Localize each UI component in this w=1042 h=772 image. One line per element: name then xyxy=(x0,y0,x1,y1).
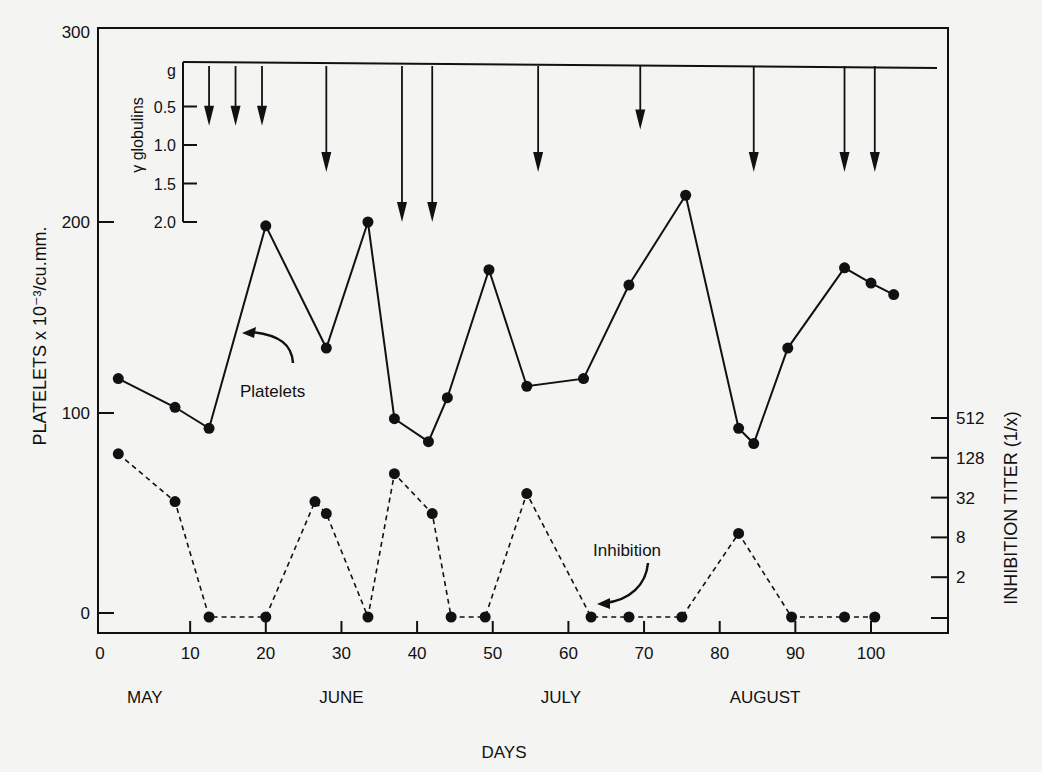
inhibition-point xyxy=(389,468,400,479)
month-label: MAY xyxy=(127,688,163,707)
inhibition-point xyxy=(676,612,687,623)
platelets-pointer-curve xyxy=(252,332,293,363)
arrow-down-icon xyxy=(257,106,267,126)
inhibition-point xyxy=(839,612,850,623)
inhibition-point xyxy=(733,528,744,539)
y2-tick-label: 32 xyxy=(956,489,975,508)
x-tick-label: 20 xyxy=(256,644,275,663)
inhibition-point xyxy=(170,496,181,507)
arrow-down-icon xyxy=(321,152,331,172)
x-tick-label: 80 xyxy=(710,644,729,663)
inhibition-line xyxy=(118,454,875,617)
inhibition-point xyxy=(427,508,438,519)
platelets-point xyxy=(733,423,744,434)
x-tick-label: 50 xyxy=(483,644,502,663)
inset-tick-label: 0.5 xyxy=(154,99,176,116)
y-tick-label: 0 xyxy=(81,604,90,623)
x-tick-label: 40 xyxy=(408,644,427,663)
y2-tick-label: 512 xyxy=(956,409,984,428)
platelets-point xyxy=(321,343,332,354)
y-tick-label: 300 xyxy=(62,23,90,42)
y2-tick-label: 2 xyxy=(956,568,965,587)
inhibition-point xyxy=(204,612,215,623)
x-tick-label: 30 xyxy=(332,644,351,663)
platelets-point xyxy=(748,438,759,449)
inhibition-point xyxy=(309,496,320,507)
platelets-point xyxy=(866,278,877,289)
inset-label: γ globulins xyxy=(129,97,146,173)
inhibition-point xyxy=(113,448,124,459)
platelets-point xyxy=(680,190,691,201)
platelets-point xyxy=(888,289,899,300)
y-tick-label: 200 xyxy=(62,213,90,232)
inhibition-point xyxy=(623,612,634,623)
y-tick-label: 100 xyxy=(62,404,90,423)
frame-border xyxy=(98,28,948,633)
x-axis-label: DAYS xyxy=(481,743,526,762)
platelets-point xyxy=(170,402,181,413)
platelets-point xyxy=(578,373,589,384)
plot-frame xyxy=(98,28,948,633)
arrow-down-icon xyxy=(231,106,241,126)
y-axis-label: PLATELETS x 10⁻³/cu.mm. xyxy=(30,226,50,445)
arrow-left-icon xyxy=(242,327,256,338)
inhibition-point xyxy=(260,612,271,623)
platelets-point xyxy=(260,220,271,231)
y2-tick-label: 128 xyxy=(956,449,984,468)
platelets-point xyxy=(442,392,453,403)
inhibition-point xyxy=(521,488,532,499)
x-tick-label: 100 xyxy=(857,644,885,663)
inhibition-point xyxy=(321,508,332,519)
x-tick-label: 0 xyxy=(95,644,104,663)
platelets-point xyxy=(483,264,494,275)
arrow-down-icon xyxy=(204,106,214,126)
platelets-point xyxy=(839,262,850,273)
x-tick-label: 60 xyxy=(559,644,578,663)
arrow-down-icon xyxy=(749,152,759,172)
inhibition-point xyxy=(362,612,373,623)
platelet-inhibition-chart: 0102030405060708090100MAYJUNEJULYAUGUST0… xyxy=(0,0,1042,772)
inset-tick-label: g xyxy=(167,62,176,79)
arrow-down-icon xyxy=(840,152,850,172)
month-label: JUNE xyxy=(319,688,363,707)
x-tick-label: 70 xyxy=(635,644,654,663)
arrow-down-icon xyxy=(533,152,543,172)
inhibition-annotation: Inhibition xyxy=(593,541,661,560)
series-layer xyxy=(113,66,899,623)
inhibition-point xyxy=(480,612,491,623)
platelets-point xyxy=(204,423,215,434)
y2-axis-label: INHIBITION TITER (1/x) xyxy=(1001,411,1021,605)
platelets-point xyxy=(423,436,434,447)
inset-baseline xyxy=(183,62,937,68)
month-label: AUGUST xyxy=(730,688,801,707)
arrow-down-icon xyxy=(397,202,407,222)
arrow-left-icon xyxy=(597,598,610,609)
inset-tick-label: 1.0 xyxy=(154,137,176,154)
month-label: JULY xyxy=(541,688,581,707)
inhibition-point xyxy=(446,612,457,623)
x-tick-label: 10 xyxy=(181,644,200,663)
arrow-down-icon xyxy=(635,110,645,130)
gamma-globulin-inset: g0.51.01.52.0 xyxy=(154,62,937,231)
platelets-line xyxy=(118,195,893,443)
platelets-point xyxy=(521,381,532,392)
inhibition-pointer-curve xyxy=(605,563,648,603)
inhibition-point xyxy=(586,612,597,623)
platelets-annotation: Platelets xyxy=(240,382,305,401)
platelets-point xyxy=(362,217,373,228)
platelets-point xyxy=(113,373,124,384)
inset-tick-label: 2.0 xyxy=(154,214,176,231)
platelets-point xyxy=(389,413,400,424)
y2-tick-label: 8 xyxy=(956,528,965,547)
platelets-point xyxy=(623,280,634,291)
x-tick-label: 90 xyxy=(786,644,805,663)
inset-tick-label: 1.5 xyxy=(154,176,176,193)
inhibition-point xyxy=(869,612,880,623)
inhibition-point xyxy=(786,612,797,623)
arrow-down-icon xyxy=(870,152,880,172)
axes: 0102030405060708090100MAYJUNEJULYAUGUST0… xyxy=(62,23,985,707)
platelets-point xyxy=(782,343,793,354)
arrow-down-icon xyxy=(427,202,437,222)
